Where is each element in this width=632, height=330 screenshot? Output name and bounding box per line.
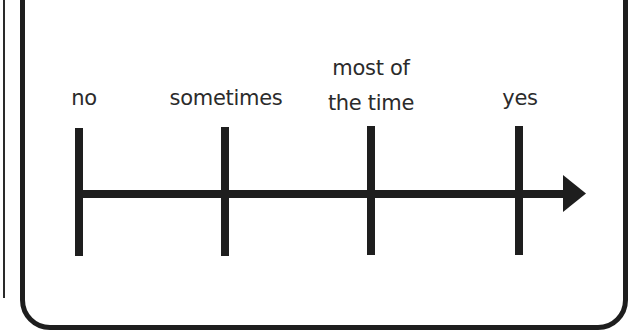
- label-no: no: [71, 86, 97, 110]
- tick-sometimes: [221, 127, 229, 256]
- label-most-of-the-time-line-2: the time: [328, 86, 414, 121]
- label-yes-line-1: yes: [502, 86, 537, 110]
- tick-yes: [515, 126, 523, 255]
- label-most-of-the-time: most of the time: [328, 51, 414, 121]
- label-yes: yes: [502, 86, 537, 110]
- label-most-of-the-time-line-1: most of: [328, 51, 414, 86]
- scale-axis-line: [79, 190, 565, 198]
- label-sometimes-line-1: sometimes: [170, 86, 283, 110]
- arrow-head-icon: [563, 175, 586, 212]
- label-sometimes: sometimes: [170, 86, 283, 110]
- tick-no: [75, 128, 83, 256]
- label-no-line-1: no: [71, 86, 97, 110]
- tick-most-of-the-time: [367, 126, 375, 255]
